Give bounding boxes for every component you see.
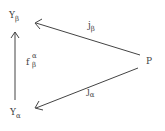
- arrows-layer: [0, 0, 165, 131]
- label-j-alpha: jα: [87, 87, 95, 96]
- label-j-beta: jβ: [88, 21, 95, 30]
- label-f: f α β: [26, 58, 29, 67]
- node-y-alpha-sub: α: [16, 112, 21, 120]
- label-j-beta-sub: β: [91, 25, 95, 33]
- node-p-base: P: [146, 56, 152, 66]
- label-f-sub: β: [32, 62, 36, 69]
- label-j-alpha-sub: α: [90, 91, 95, 99]
- node-p: P: [146, 57, 152, 66]
- label-f-base: f: [26, 57, 29, 67]
- node-y-alpha: Yα: [10, 108, 21, 117]
- label-f-sup: α: [32, 53, 37, 60]
- node-y-beta-sub: β: [15, 15, 19, 23]
- node-y-beta: Yβ: [9, 11, 19, 20]
